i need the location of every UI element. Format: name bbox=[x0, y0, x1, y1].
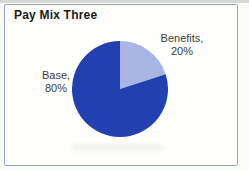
slice-label-benefits: Benefits, 20% bbox=[153, 32, 211, 58]
slice-label-base-value: 80% bbox=[45, 82, 67, 94]
slice-label-base: Base, 80% bbox=[32, 69, 80, 95]
scan-artifact-top-strip bbox=[0, 0, 249, 3]
slice-label-benefits-value: 20% bbox=[171, 45, 193, 57]
slice-label-benefits-name: Benefits, bbox=[161, 32, 204, 44]
scan-artifact-bleed bbox=[71, 144, 163, 151]
chart-title: Pay Mix Three bbox=[14, 8, 97, 22]
chart-panel: Pay Mix Three Benefits, 20% Base, 80% bbox=[4, 4, 238, 166]
slice-label-base-name: Base, bbox=[42, 69, 70, 81]
